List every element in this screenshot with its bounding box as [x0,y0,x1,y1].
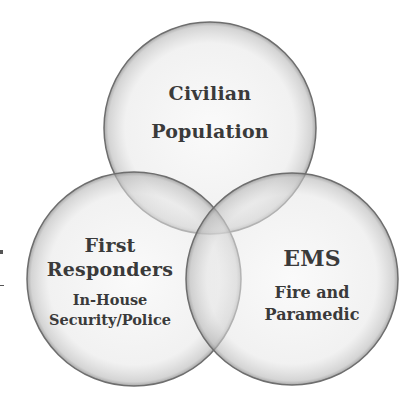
label-responders: Responders [47,256,173,282]
label-fire-and: Fire and [275,283,350,303]
label-in-house: In-House [73,290,148,310]
label-civilian: Civilian [169,80,252,106]
edge-mark-bottom [0,285,4,286]
edge-mark-top [0,250,3,254]
label-ems: EMS [283,245,341,271]
circle-ems [186,173,398,385]
label-paramedic: Paramedic [265,305,360,325]
venn-diagram [0,0,417,412]
label-security-police: Security/Police [49,310,171,330]
label-first: First [84,232,135,258]
label-population: Population [151,118,269,144]
